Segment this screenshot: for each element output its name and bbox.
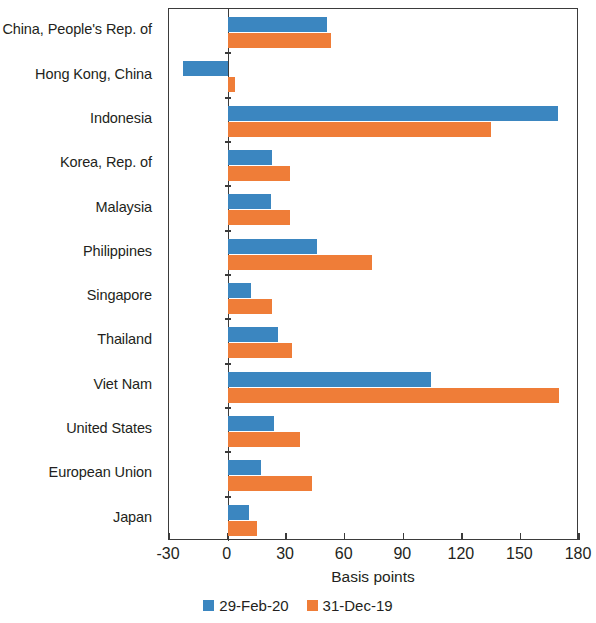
bar xyxy=(228,166,291,181)
x-tick-label: 60 xyxy=(335,545,353,563)
plot-area xyxy=(168,8,578,540)
bar-chart: China, People's Rep. ofHong Kong, ChinaI… xyxy=(0,0,596,623)
legend-swatch-icon xyxy=(307,600,318,611)
bar-group xyxy=(169,275,579,319)
bar xyxy=(228,343,292,358)
x-axis-tick xyxy=(168,533,169,540)
category-label: Viet Nam xyxy=(0,363,160,407)
bar-group xyxy=(169,319,579,363)
x-axis-tick xyxy=(520,533,521,540)
category-label: Malaysia xyxy=(0,185,160,229)
legend-label: 29-Feb-20 xyxy=(219,597,288,614)
x-tick-label: 0 xyxy=(222,545,231,563)
bar xyxy=(228,372,431,387)
bar xyxy=(183,61,228,76)
category-label: Thailand xyxy=(0,318,160,362)
bar-group xyxy=(169,408,579,452)
x-axis-tick-labels: -300306090120150180 xyxy=(168,545,578,569)
bar xyxy=(228,106,558,121)
bar-group xyxy=(169,98,579,142)
category-label: United States xyxy=(0,407,160,451)
category-label: European Union xyxy=(0,451,160,495)
x-axis-tick xyxy=(403,533,404,540)
bar xyxy=(228,255,373,270)
bar xyxy=(228,239,318,254)
bar xyxy=(228,17,328,32)
legend-swatch-icon xyxy=(203,600,214,611)
legend-item[interactable]: 31-Dec-19 xyxy=(307,597,393,614)
category-label: Hong Kong, China xyxy=(0,52,160,96)
bar xyxy=(228,33,332,48)
x-tick-label: 30 xyxy=(276,545,294,563)
x-tick-label: -30 xyxy=(156,545,179,563)
bar-group xyxy=(169,497,579,541)
x-axis-tick xyxy=(285,533,286,540)
category-label: China, People's Rep. of xyxy=(0,8,160,52)
bar-group xyxy=(169,452,579,496)
bar xyxy=(228,327,279,342)
category-label: Philippines xyxy=(0,230,160,274)
chart-legend: 29-Feb-2031-Dec-19 xyxy=(0,597,596,614)
bar xyxy=(228,77,236,92)
bar xyxy=(228,476,312,491)
bar-group xyxy=(169,364,579,408)
bar xyxy=(228,210,291,225)
category-label: Indonesia xyxy=(0,97,160,141)
bar xyxy=(228,521,257,536)
bar-group xyxy=(169,53,579,97)
bar xyxy=(228,150,273,165)
x-axis-tick xyxy=(227,533,228,540)
bar-group xyxy=(169,142,579,186)
bar xyxy=(228,505,250,520)
x-axis-title: Basis points xyxy=(168,568,578,586)
category-label: Korea, Rep. of xyxy=(0,141,160,185)
bar xyxy=(228,432,300,447)
legend-label: 31-Dec-19 xyxy=(323,597,393,614)
x-tick-label: 150 xyxy=(506,545,533,563)
category-axis-labels: China, People's Rep. ofHong Kong, ChinaI… xyxy=(0,8,160,540)
x-tick-label: 90 xyxy=(393,545,411,563)
category-label: Japan xyxy=(0,496,160,540)
bar-group xyxy=(169,186,579,230)
bar xyxy=(228,283,251,298)
x-axis-tick xyxy=(578,533,579,540)
bar xyxy=(228,194,271,209)
bars-layer xyxy=(169,9,579,541)
bar xyxy=(228,416,275,431)
bar xyxy=(228,299,273,314)
x-tick-label: 180 xyxy=(565,545,592,563)
x-axis-tick xyxy=(461,533,462,540)
bar xyxy=(228,460,261,475)
bar xyxy=(228,388,560,403)
category-label: Singapore xyxy=(0,274,160,318)
x-axis-tick xyxy=(344,533,345,540)
x-tick-label: 120 xyxy=(448,545,475,563)
bar-group xyxy=(169,9,579,53)
legend-item[interactable]: 29-Feb-20 xyxy=(203,597,288,614)
bar xyxy=(228,122,492,137)
bar-group xyxy=(169,231,579,275)
